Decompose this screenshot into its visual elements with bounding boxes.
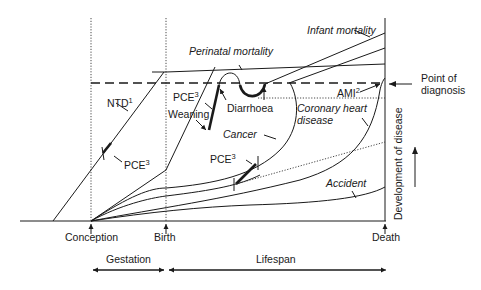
perinatal-mortality-label: Perinatal mortality [189,45,274,57]
birth-label: Birth [154,231,176,243]
chd-label-line1: Coronary heart [297,102,368,114]
weaning-label: Weaning [168,108,209,120]
cancer-leader [264,135,276,139]
cancer-label: Cancer [223,128,257,140]
ntd-label: NTD1 [107,96,133,109]
accident-curve [91,187,385,221]
curves [53,33,385,221]
development-of-disease-label: Development of disease [392,107,404,220]
point-of-diagnosis-line1: Point of [421,72,457,84]
pce-a-leader [114,156,122,162]
ami-arrow [360,84,380,92]
perinatal-mortality-curve [166,64,385,72]
pce-label-weaning: PCE3 [173,90,199,103]
ami-label: AMI2 [337,86,360,99]
diarrhoea-arrow-a [220,89,226,100]
diarrhoea-label: Diarrhoea [227,102,273,114]
pce-label-ntd: PCE3 [124,158,150,171]
point-of-diagnosis-line2: diagnosis [421,84,465,96]
pce-c-leader [246,160,252,164]
cancer-curve-lower [91,175,260,221]
chd-leader [362,118,368,126]
ntd-pce-segment [103,143,111,153]
diarrhoea-dip [240,84,265,96]
lifespan-label: Lifespan [256,253,296,265]
infant-mortality-label: Infant mortality [307,24,377,36]
conception-label: Conception [65,231,118,243]
labels: Infant mortality Perinatal mortality NTD… [65,24,465,265]
pce-label-cancer: PCE3 [210,152,236,165]
chd-label-line2: disease [297,114,333,126]
infant-mortality-curve [265,33,385,84]
accident-label: Accident [325,177,367,189]
gestation-label: Gestation [106,253,151,265]
death-label: Death [372,231,400,243]
disease-development-diagram: Infant mortality Perinatal mortality NTD… [0,0,481,290]
weaning-arrow [196,120,206,130]
coronary-heart-disease-curve [91,78,385,221]
